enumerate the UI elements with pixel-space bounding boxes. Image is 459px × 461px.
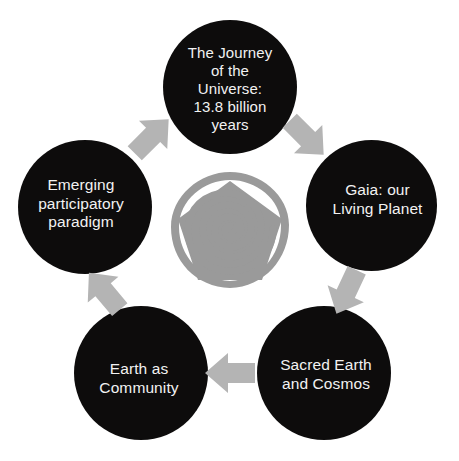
node-community-label: Earth as Community bbox=[93, 360, 184, 398]
node-emerging-participatory-paradigm[interactable]: Emerging participatory paradigm bbox=[18, 140, 152, 274]
node-gaia-living-planet[interactable]: Gaia: our Living Planet bbox=[306, 140, 437, 271]
node-journey-of-the-universe[interactable]: The Journey of the Universe: 13.8 billio… bbox=[163, 20, 297, 154]
cycle-diagram: The Journey of the Universe: 13.8 billio… bbox=[0, 0, 459, 461]
node-sacred-earth-and-cosmos[interactable]: Sacred Earth and Cosmos bbox=[257, 306, 391, 440]
node-earth-as-community[interactable]: Earth as Community bbox=[74, 306, 208, 440]
pentagon-spiral-emblem bbox=[168, 169, 292, 291]
node-gaia-label: Gaia: our Living Planet bbox=[326, 181, 428, 219]
node-emerging-label: Emerging participatory paradigm bbox=[32, 176, 130, 233]
node-sacred-label: Sacred Earth and Cosmos bbox=[274, 356, 378, 394]
node-journey-label: The Journey of the Universe: 13.8 billio… bbox=[182, 44, 278, 134]
arrow-sacred-to-community-icon bbox=[200, 345, 262, 401]
